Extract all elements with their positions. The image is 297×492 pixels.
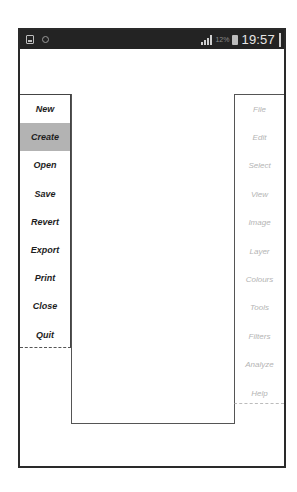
phone-screen: 12% 19:57 New Create Open Save Revert Ex… [18,28,286,468]
battery-percent: 12% [215,36,229,43]
menu-item-revert[interactable]: Revert [20,208,70,236]
menu-item-tools[interactable]: Tools [235,294,284,322]
menu-item-open[interactable]: Open [20,151,70,179]
menu-item-file[interactable]: File [235,95,284,123]
menu-item-edit[interactable]: Edit [235,123,284,151]
menu-item-close[interactable]: Close [20,292,70,320]
menu-item-quit[interactable]: Quit [20,321,70,349]
menu-item-save[interactable]: Save [20,180,70,208]
menu-item-filters[interactable]: Filters [235,322,284,350]
canvas-area[interactable] [71,94,235,424]
status-bar-left [26,35,49,44]
menu-item-export[interactable]: Export [20,236,70,264]
menu-item-create[interactable]: Create [20,123,70,151]
menu-item-colours[interactable]: Colours [235,265,284,293]
status-bar: 12% 19:57 [20,30,284,49]
menu-item-help[interactable]: Help [235,379,284,407]
battery-icon [232,35,238,45]
menu-item-view[interactable]: View [235,180,284,208]
menu-item-select[interactable]: Select [235,152,284,180]
status-bar-edge [279,33,281,47]
sync-icon [42,36,49,43]
menu-item-new[interactable]: New [20,95,70,123]
menu-item-analyze[interactable]: Analyze [235,351,284,379]
status-bar-right: 12% 19:57 [201,32,281,47]
file-menu: New Create Open Save Revert Export Print… [20,94,71,348]
menu-item-print[interactable]: Print [20,264,70,292]
menu-item-image[interactable]: Image [235,209,284,237]
menu-item-layer[interactable]: Layer [235,237,284,265]
main-menu: File Edit Select View Image Layer Colour… [234,94,284,404]
image-icon [26,35,34,44]
signal-icon [201,35,212,45]
clock: 19:57 [241,32,275,47]
